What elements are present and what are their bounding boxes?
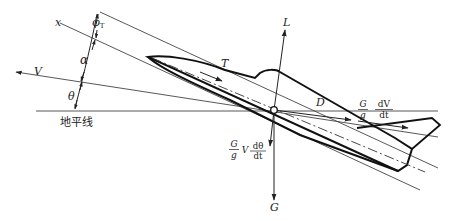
svg-text:G: G bbox=[230, 139, 237, 149]
drag-arrow bbox=[274, 110, 351, 120]
phi-t-label: φT bbox=[92, 16, 105, 30]
svg-text:dt: dt bbox=[254, 151, 263, 161]
normal-inertia-label: G g V dθ dt bbox=[229, 139, 266, 161]
lift-label: L bbox=[282, 16, 290, 29]
theta-label: θ bbox=[68, 90, 75, 103]
x-axis-label: x bbox=[55, 16, 62, 29]
tangential-inertia-label: G g dV dt bbox=[358, 99, 393, 120]
svg-text:g: g bbox=[231, 150, 237, 160]
phi-arrow-bottom bbox=[96, 30, 97, 38]
velocity-label: V bbox=[34, 65, 43, 78]
aircraft-fuselage bbox=[148, 56, 412, 171]
svg-text:g: g bbox=[360, 110, 366, 120]
horizon-label: 地平线 bbox=[60, 115, 93, 129]
drag-label: D bbox=[315, 96, 325, 109]
svg-text:dθ: dθ bbox=[253, 141, 264, 151]
theta-arrow-bottom bbox=[75, 100, 77, 109]
weight-label: G bbox=[270, 201, 279, 214]
normal-inertia-arrow bbox=[270, 110, 274, 146]
svg-text:V: V bbox=[242, 145, 250, 155]
flight-force-diagram: x φT α V θ 地平线 L T D G G g dV dt G g V d… bbox=[0, 0, 449, 221]
svg-text:G: G bbox=[359, 99, 366, 109]
svg-text:dt: dt bbox=[379, 110, 389, 120]
alpha-label: α bbox=[80, 53, 88, 67]
alpha-arrow-top bbox=[92, 40, 95, 50]
center-of-gravity bbox=[271, 107, 278, 114]
thrust-label: T bbox=[221, 57, 230, 70]
svg-text:dV: dV bbox=[378, 99, 391, 109]
thrust-line bbox=[100, 12, 438, 168]
